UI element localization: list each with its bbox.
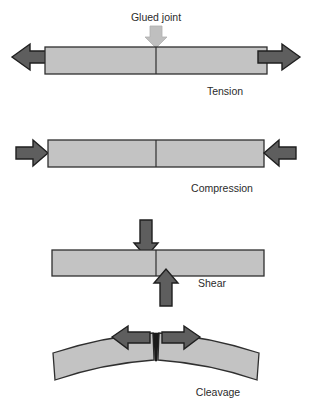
left-compression-arrow <box>16 140 48 166</box>
glued-joint-label: Glued joint <box>131 11 181 23</box>
panel-shear: Shear <box>52 220 264 306</box>
diagram-canvas: Glued joint Tension <box>0 0 312 412</box>
shear-bar <box>52 250 264 276</box>
caption-tension: Tension <box>207 85 243 97</box>
stress-types-diagram: Glued joint Tension <box>0 0 312 412</box>
panel-compression: Compression <box>16 140 296 194</box>
panel-tension: Glued joint Tension <box>12 11 300 97</box>
caption-compression: Compression <box>191 182 253 194</box>
right-compression-arrow <box>264 140 296 166</box>
caption-shear: Shear <box>198 277 227 289</box>
glued-joint-pointer-down-arrow-icon <box>145 26 167 48</box>
caption-cleavage: Cleavage <box>196 386 241 398</box>
panel-cleavage: Cleavage <box>53 326 259 398</box>
